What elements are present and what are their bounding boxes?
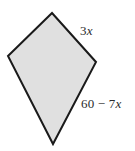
side-label-bottom-right-coefficient: 7 (109, 96, 116, 111)
side-label-bottom-right-constant: 60 (81, 96, 94, 111)
side-label-top-right-variable: x (87, 23, 93, 38)
side-label-top-right-coefficient: 3 (80, 23, 87, 38)
kite-diagram-svg (0, 0, 135, 151)
side-label-bottom-right: 60 − 7x (81, 97, 122, 110)
kite-figure: 3x 60 − 7x (0, 0, 135, 151)
side-label-bottom-right-variable: x (116, 96, 122, 111)
side-label-top-right: 3x (80, 24, 93, 37)
